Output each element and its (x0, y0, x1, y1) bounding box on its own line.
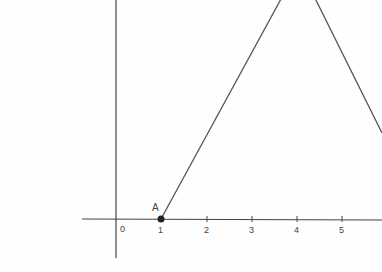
tick-label-5: 5 (339, 225, 344, 235)
tick-label-1: 1 (158, 225, 163, 235)
graph-canvas: 0 1 2 3 4 5 A (0, 0, 382, 272)
graph-svg: 0 1 2 3 4 5 A (0, 0, 382, 272)
tick-label-2: 2 (204, 225, 209, 235)
tick-label-4: 4 (294, 225, 299, 235)
triangle-sides (161, 0, 382, 219)
tick-label-3: 3 (249, 225, 254, 235)
x-axis (82, 219, 382, 220)
origin-label: 0 (120, 224, 125, 234)
point-a (158, 216, 165, 223)
point-a-label: A (152, 202, 159, 213)
